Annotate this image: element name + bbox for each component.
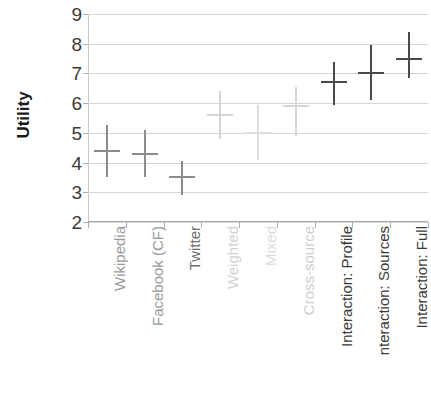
data-point-marker bbox=[207, 114, 233, 116]
data-point-marker bbox=[321, 81, 347, 83]
data-point-marker bbox=[94, 150, 120, 152]
gridline bbox=[88, 222, 428, 223]
y-axis-tick-labels: 98765432 bbox=[52, 0, 82, 230]
x-category-label: Facebook (CF) bbox=[150, 226, 165, 326]
x-category-label: Mixed bbox=[263, 226, 278, 266]
y-tick-label: 9 bbox=[56, 5, 82, 24]
y-tick-label: 7 bbox=[56, 64, 82, 83]
x-category-label: Interaction: Full bbox=[414, 226, 429, 329]
x-category-label: Cross-source bbox=[301, 226, 316, 315]
x-category-label-text: Wikipedia bbox=[112, 226, 127, 291]
y-tick-label: 5 bbox=[56, 123, 82, 142]
y-tick-label: 8 bbox=[56, 34, 82, 53]
y-tickmark bbox=[83, 103, 88, 104]
error-bar-whisker bbox=[408, 32, 410, 78]
x-category-label-text: Mixed bbox=[263, 226, 278, 266]
y-tick-label: 4 bbox=[56, 153, 82, 172]
y-tickmark bbox=[83, 192, 88, 193]
y-tickmark bbox=[83, 14, 88, 15]
y-tick-label: 2 bbox=[56, 213, 82, 232]
y-tickmark bbox=[83, 44, 88, 45]
x-category-label: Interaction: Profile bbox=[339, 226, 354, 347]
x-category-label-text: Interaction: Full bbox=[414, 226, 429, 329]
y-axis-title: Utility bbox=[0, 0, 48, 230]
y-tickmark bbox=[83, 73, 88, 74]
gridline bbox=[88, 14, 428, 15]
utility-scatter-chart: Utility 98765432 WikipediaFacebook (CF)T… bbox=[0, 0, 431, 408]
error-bar-whisker bbox=[295, 87, 297, 136]
gridline bbox=[88, 163, 428, 164]
data-point-marker bbox=[169, 176, 195, 178]
data-point-marker bbox=[132, 153, 158, 155]
gridline bbox=[88, 192, 428, 193]
x-category-label-text: Twitter bbox=[187, 226, 202, 270]
x-category-label: nteraction: Sources bbox=[376, 226, 391, 355]
y-tick-label: 3 bbox=[56, 183, 82, 202]
x-category-label-text: Cross-source bbox=[301, 226, 316, 315]
x-category-label-text: Weighted bbox=[225, 226, 240, 289]
x-category-label: Wikipedia bbox=[112, 226, 127, 291]
x-category-label-text: Interaction: Profile bbox=[339, 226, 354, 347]
data-point-marker bbox=[245, 132, 271, 134]
x-category-label: Weighted bbox=[225, 226, 240, 289]
x-category-label-text: Facebook (CF) bbox=[150, 226, 165, 326]
y-tick-label: 6 bbox=[56, 94, 82, 113]
x-axis-category-labels: WikipediaFacebook (CF)TwitterWeightedMix… bbox=[88, 226, 431, 408]
data-point-marker bbox=[358, 72, 384, 74]
y-tickmark bbox=[83, 163, 88, 164]
y-axis-line bbox=[88, 14, 89, 222]
y-axis-title-label: Utility bbox=[14, 91, 34, 138]
gridline bbox=[88, 44, 428, 45]
data-point-marker bbox=[396, 58, 422, 60]
x-category-label-text: nteraction: Sources bbox=[376, 226, 391, 355]
plot-area bbox=[88, 14, 428, 222]
x-category-label: Twitter bbox=[187, 226, 202, 270]
y-tickmark bbox=[83, 133, 88, 134]
data-point-marker bbox=[283, 105, 309, 107]
